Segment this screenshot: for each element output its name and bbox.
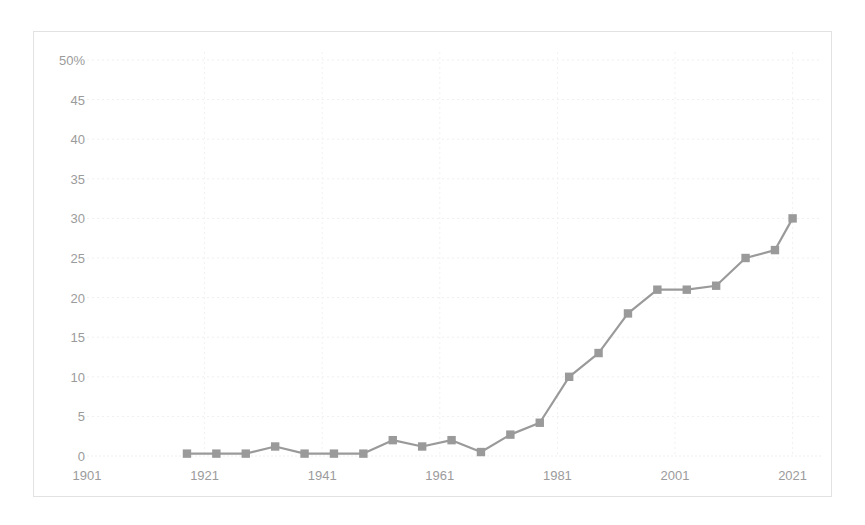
x-axis-tick-label: 2021 bbox=[778, 468, 807, 483]
x-axis-tick-label: 1941 bbox=[308, 468, 337, 483]
x-axis-tick-label: 1901 bbox=[73, 468, 102, 483]
data-point-marker bbox=[536, 419, 544, 427]
data-point-marker bbox=[418, 442, 426, 450]
data-point-marker bbox=[389, 436, 397, 444]
data-point-marker bbox=[741, 254, 749, 262]
data-point-marker bbox=[506, 430, 514, 438]
data-point-marker bbox=[271, 442, 279, 450]
data-point-marker bbox=[300, 449, 308, 457]
data-point-marker bbox=[359, 449, 367, 457]
y-axis-tick-label: 45 bbox=[71, 92, 85, 107]
data-point-marker bbox=[788, 214, 796, 222]
data-point-marker bbox=[212, 449, 220, 457]
x-axis-tick-label: 1981 bbox=[543, 468, 572, 483]
y-axis-tick-label: 35 bbox=[71, 171, 85, 186]
data-point-marker bbox=[330, 449, 338, 457]
data-point-marker bbox=[683, 285, 691, 293]
data-point-marker bbox=[242, 449, 250, 457]
x-axis-tick-label: 1921 bbox=[190, 468, 219, 483]
chart-screenshot: 50%454035302520151050 190119211941196119… bbox=[0, 0, 865, 525]
x-axis-tick-labels: 1901192119411961198120012021 bbox=[0, 468, 865, 492]
y-axis-tick-label: 0 bbox=[78, 449, 85, 464]
data-line bbox=[187, 218, 793, 453]
y-axis-tick-label: 25 bbox=[71, 251, 85, 266]
data-point-marker bbox=[712, 282, 720, 290]
y-axis-tick-label: 10 bbox=[71, 369, 85, 384]
data-point-marker bbox=[447, 436, 455, 444]
data-point-marker bbox=[477, 448, 485, 456]
x-axis-tick-label: 2001 bbox=[661, 468, 690, 483]
y-axis-tick-label: 15 bbox=[71, 330, 85, 345]
data-point-marker bbox=[183, 449, 191, 457]
y-axis-tick-label: 20 bbox=[71, 290, 85, 305]
data-point-marker bbox=[771, 246, 779, 254]
y-axis-tick-label: 50% bbox=[59, 53, 85, 68]
data-point-marker bbox=[594, 349, 602, 357]
data-point-marker bbox=[565, 373, 573, 381]
y-axis-tick-label: 5 bbox=[78, 409, 85, 424]
data-point-marker bbox=[624, 309, 632, 317]
y-axis-tick-label: 30 bbox=[71, 211, 85, 226]
chart-plot-area bbox=[0, 0, 865, 525]
y-axis-tick-labels: 50%454035302520151050 bbox=[33, 0, 85, 525]
data-point-marker bbox=[653, 285, 661, 293]
y-axis-tick-label: 40 bbox=[71, 132, 85, 147]
x-axis-tick-label: 1961 bbox=[425, 468, 454, 483]
